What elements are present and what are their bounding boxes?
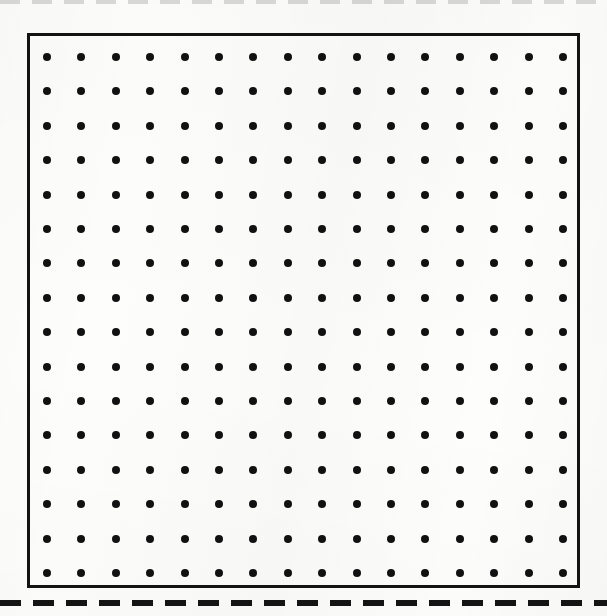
grid-dot — [284, 466, 292, 474]
grid-dot — [490, 156, 498, 164]
grid-dot — [146, 294, 154, 302]
grid-dot — [249, 191, 257, 199]
grid-dot — [559, 500, 567, 508]
grid-dot — [525, 466, 533, 474]
grid-dot — [456, 53, 464, 61]
grid-dot — [318, 397, 326, 405]
grid-dot — [387, 191, 395, 199]
grid-dot — [456, 191, 464, 199]
grid-dot — [318, 363, 326, 371]
grid-dot — [249, 328, 257, 336]
grid-dot — [353, 225, 361, 233]
grid-dot — [181, 466, 189, 474]
grid-dot — [249, 535, 257, 543]
grid-dot — [215, 431, 223, 439]
grid-dot — [215, 87, 223, 95]
grid-dot — [353, 431, 361, 439]
grid-dot — [421, 431, 429, 439]
grid-dot — [77, 431, 85, 439]
grid-dot — [249, 431, 257, 439]
grid-dot — [456, 397, 464, 405]
grid-dot — [387, 87, 395, 95]
bottom-cut-line — [0, 600, 607, 606]
grid-dot — [318, 328, 326, 336]
grid-dot — [249, 122, 257, 130]
grid-dot — [249, 500, 257, 508]
grid-dot — [490, 122, 498, 130]
grid-dot — [559, 225, 567, 233]
grid-dot — [215, 569, 223, 577]
grid-dot — [77, 225, 85, 233]
grid-dot — [284, 535, 292, 543]
grid-dot — [456, 122, 464, 130]
grid-dot — [525, 191, 533, 199]
grid-dot — [43, 191, 51, 199]
grid-dot — [456, 363, 464, 371]
grid-dot — [353, 466, 361, 474]
grid-dot — [112, 156, 120, 164]
grid-dot — [421, 466, 429, 474]
grid-dot — [387, 363, 395, 371]
grid-dot — [43, 53, 51, 61]
grid-dot — [490, 397, 498, 405]
grid-dot — [249, 466, 257, 474]
grid-dot — [421, 191, 429, 199]
grid-dot — [559, 363, 567, 371]
grid-dot — [525, 294, 533, 302]
grid-dot — [215, 328, 223, 336]
grid-dot — [525, 53, 533, 61]
grid-dot — [43, 466, 51, 474]
grid-dot — [490, 294, 498, 302]
grid-dot — [112, 53, 120, 61]
grid-dot — [525, 87, 533, 95]
grid-dot — [421, 122, 429, 130]
grid-dot — [284, 328, 292, 336]
grid-dot — [490, 328, 498, 336]
grid-dot — [215, 156, 223, 164]
grid-dot — [421, 363, 429, 371]
grid-dot — [421, 328, 429, 336]
grid-dot — [43, 87, 51, 95]
grid-dot — [387, 500, 395, 508]
grid-dot — [387, 53, 395, 61]
grid-dot — [318, 294, 326, 302]
grid-dot — [215, 397, 223, 405]
grid-dot — [490, 363, 498, 371]
grid-dot — [421, 535, 429, 543]
grid-dot — [112, 294, 120, 302]
grid-dot — [456, 466, 464, 474]
grid-dot — [112, 466, 120, 474]
grid-dot — [525, 156, 533, 164]
grid-dot — [387, 535, 395, 543]
grid-dot — [421, 87, 429, 95]
grid-dot — [559, 87, 567, 95]
grid-dot — [387, 156, 395, 164]
grid-dot — [146, 259, 154, 267]
grid-dot — [387, 328, 395, 336]
grid-dot — [284, 225, 292, 233]
grid-dot — [456, 569, 464, 577]
grid-dot — [77, 87, 85, 95]
grid-dot — [559, 535, 567, 543]
grid-dot — [181, 87, 189, 95]
grid-dot — [318, 225, 326, 233]
top-cut-line — [0, 0, 607, 4]
grid-dot — [249, 225, 257, 233]
grid-dot — [318, 466, 326, 474]
grid-dot — [421, 53, 429, 61]
grid-dot — [146, 431, 154, 439]
grid-dot — [353, 191, 361, 199]
grid-dot — [249, 156, 257, 164]
grid-dot — [525, 363, 533, 371]
grid-dot — [387, 122, 395, 130]
grid-dot — [249, 569, 257, 577]
grid-dot — [456, 500, 464, 508]
grid-dot — [490, 535, 498, 543]
grid-dot — [215, 294, 223, 302]
grid-dot — [181, 225, 189, 233]
grid-dot — [421, 259, 429, 267]
grid-dot — [181, 535, 189, 543]
grid-dot — [77, 363, 85, 371]
grid-dot — [249, 87, 257, 95]
grid-dot — [112, 122, 120, 130]
